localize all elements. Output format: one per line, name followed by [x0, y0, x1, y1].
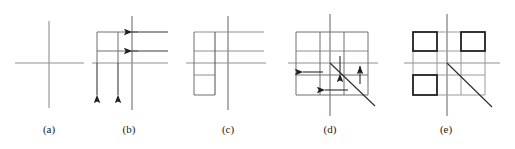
panel-label-d: (d)	[310, 124, 350, 135]
panel-e-bold-cell-top-left	[413, 32, 437, 51]
panel-label-e: (e)	[426, 124, 466, 135]
panel-a-cross	[15, 21, 84, 108]
panel-b-grid-with-arrows	[92, 16, 168, 110]
panel-c-grid-no-arrows	[186, 16, 266, 110]
panel-d-grid-with-diagonal-and-arrows	[288, 14, 378, 116]
panel-label-a: (a)	[29, 124, 69, 135]
panel-e-grid-with-bold-cells	[404, 14, 500, 116]
panel-label-c: (c)	[208, 124, 248, 135]
figure-panels-container: (a) (b) (c) (d) (e)	[0, 0, 515, 149]
panel-e-bold-cell-top-right	[461, 32, 485, 51]
panel-e-bold-cell-bottom-left	[413, 75, 437, 95]
panel-label-b: (b)	[109, 124, 149, 135]
